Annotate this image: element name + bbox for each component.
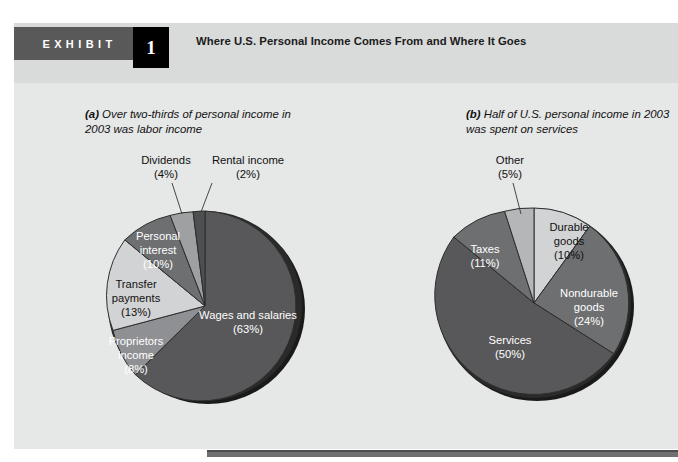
pie-b-label-other-name: Other <box>496 154 524 166</box>
pie-b-label-taxes-name: Taxes <box>470 243 500 255</box>
exhibit-page: EXHIBIT 1 Where U.S. Personal Income Com… <box>0 0 678 462</box>
pie-b-label-nondurable-2: goods <box>574 301 605 313</box>
pie-a-label-interest-2: interest <box>140 244 178 256</box>
pie-a-label-dividends-pct: (4%) <box>154 168 178 180</box>
pie-b-label-taxes-pct: (11%) <box>470 257 499 269</box>
pie-a-label-wages-pct: (63%) <box>233 323 263 335</box>
pie-b-label-durable-1: Durable <box>549 221 588 233</box>
pie-b-label-nondurable-pct: (24%) <box>574 315 604 327</box>
pie-a-label-transfer-1: Transfer <box>115 278 157 290</box>
pie-a-label-transfer-2: payments <box>112 292 161 304</box>
pie-b-label-durable-pct: (10%) <box>554 249 584 261</box>
pie-a-label-rental-pct: (2%) <box>236 168 260 180</box>
pie-a-label-rental-name: Rental income <box>212 154 284 166</box>
pie-a-leader-rental <box>201 183 212 212</box>
charts-area: Wages and salaries (63%) Proprietors inc… <box>0 0 678 462</box>
pie-b-label-durable-2: goods <box>554 235 585 247</box>
pie-charts-svg: Wages and salaries (63%) Proprietors inc… <box>0 0 678 462</box>
pie-a: Wages and salaries (63%) Proprietors inc… <box>107 154 305 404</box>
pie-a-label-interest-pct: (10%) <box>143 258 173 270</box>
pie-a-label-transfer-pct: (13%) <box>121 306 151 318</box>
pie-b-label-services-pct: (50%) <box>495 348 525 360</box>
pie-b-label-other-pct: (5%) <box>498 168 522 180</box>
pie-a-label-proprietors-1: Proprietors <box>109 335 164 347</box>
pie-a-leader-dividends <box>172 183 182 214</box>
pie-b-label-services-name: Services <box>489 334 532 346</box>
pie-a-label-interest-1: Personal <box>136 230 180 242</box>
pie-a-label-proprietors-2: income <box>118 349 154 361</box>
pie-a-label-dividends-name: Dividends <box>141 154 191 166</box>
pie-a-label-proprietors-pct: (8%) <box>124 363 148 375</box>
pie-a-label-wages-name: Wages and salaries <box>199 309 297 321</box>
bottom-rule-highlight <box>207 450 678 452</box>
pie-b-label-nondurable-1: Nondurable <box>560 287 618 299</box>
pie-b: Durable goods (10%) Nondurable goods (24… <box>435 154 634 401</box>
